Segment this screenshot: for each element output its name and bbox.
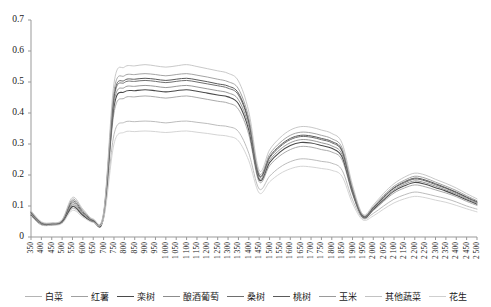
legend-label: 其他蔬菜 xyxy=(385,290,421,303)
legend-label: 酿酒葡萄 xyxy=(183,290,219,303)
spectral-reflectance-chart: 00.10.20.30.40.50.60.7 35040045050055060… xyxy=(0,0,491,307)
legend-item[interactable]: 栾树 xyxy=(117,290,155,303)
legend-line-swatch xyxy=(163,296,180,297)
legend-label: 玉米 xyxy=(339,290,357,303)
series-line xyxy=(31,96,477,226)
series-line xyxy=(31,74,477,225)
legend-item[interactable]: 桃树 xyxy=(273,290,311,303)
legend-label: 白菜 xyxy=(45,290,63,303)
axis-tick-marks xyxy=(28,20,477,240)
legend-item[interactable]: 红薯 xyxy=(71,290,109,303)
legend-label: 桃树 xyxy=(293,290,311,303)
legend-line-swatch xyxy=(227,296,244,297)
axis-lines xyxy=(31,20,477,237)
legend-line-swatch xyxy=(365,296,382,297)
legend-line-swatch xyxy=(429,296,446,297)
legend-label: 桑树 xyxy=(247,290,265,303)
series-line xyxy=(31,85,477,226)
legend-item[interactable]: 玉米 xyxy=(319,290,357,303)
legend-item[interactable]: 酿酒葡萄 xyxy=(163,290,219,303)
legend-label: 栾树 xyxy=(137,290,155,303)
legend-label: 红薯 xyxy=(91,290,109,303)
series-lines xyxy=(31,65,477,228)
legend-item[interactable]: 花生 xyxy=(429,290,467,303)
legend-item[interactable]: 其他蔬菜 xyxy=(365,290,421,303)
legend-line-swatch xyxy=(319,296,336,297)
legend-item[interactable]: 白菜 xyxy=(25,290,63,303)
legend-item[interactable]: 桑树 xyxy=(227,290,265,303)
legend-line-swatch xyxy=(273,296,290,297)
series-line xyxy=(31,121,477,225)
legend-line-swatch xyxy=(71,296,88,297)
series-line xyxy=(31,65,477,225)
series-line xyxy=(31,78,477,225)
legend-line-swatch xyxy=(25,296,42,297)
series-line xyxy=(31,90,477,227)
chart-legend: 白菜红薯栾树酿酒葡萄桑树桃树玉米其他蔬菜花生 xyxy=(0,288,491,304)
legend-line-swatch xyxy=(117,296,134,297)
plot-area xyxy=(0,0,491,307)
legend-label: 花生 xyxy=(449,290,467,303)
